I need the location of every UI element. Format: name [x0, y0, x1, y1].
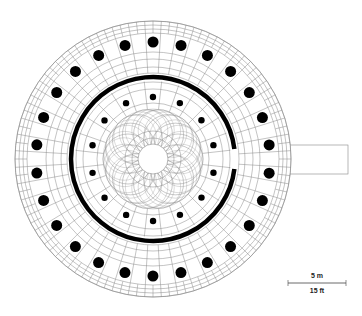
inner-column — [150, 94, 156, 100]
outer-column — [70, 241, 81, 252]
outer-column — [264, 168, 275, 179]
outer-column — [257, 112, 268, 123]
outer-column — [244, 220, 255, 231]
outer-column — [93, 257, 104, 268]
outer-column — [31, 139, 42, 150]
outer-column — [257, 195, 268, 206]
inner-column — [177, 100, 183, 106]
inner-column — [198, 194, 204, 200]
outer-column — [202, 257, 213, 268]
inner-column — [123, 212, 129, 218]
inner-column — [210, 170, 216, 176]
outer-column — [38, 112, 49, 123]
tholos-floor-plan — [0, 0, 362, 316]
outer-column — [225, 241, 236, 252]
scale-label-metric: 5 m — [287, 272, 347, 279]
outer-column — [70, 66, 81, 77]
outer-column — [148, 37, 159, 48]
scale-bar — [288, 280, 346, 286]
inner-column — [177, 212, 183, 218]
outer-column — [202, 50, 213, 61]
outer-column — [264, 139, 275, 150]
outer-column — [51, 87, 62, 98]
inner-column — [101, 117, 107, 123]
outer-column — [51, 220, 62, 231]
outer-column — [38, 195, 49, 206]
inner-column — [198, 117, 204, 123]
inner-column — [210, 142, 216, 148]
outer-column — [147, 271, 158, 282]
outer-column — [31, 168, 42, 179]
outer-column — [120, 40, 131, 51]
outer-column — [176, 40, 187, 51]
scale-label-imperial: 15 ft — [287, 287, 347, 294]
outer-column — [93, 50, 104, 61]
inner-column — [101, 194, 107, 200]
outer-column — [244, 87, 255, 98]
outer-column — [175, 267, 186, 278]
inner-column — [123, 100, 129, 106]
outer-column — [225, 66, 236, 77]
outer-column — [119, 267, 130, 278]
inner-column — [89, 142, 95, 148]
inner-column — [89, 170, 95, 176]
inner-column — [150, 218, 156, 224]
